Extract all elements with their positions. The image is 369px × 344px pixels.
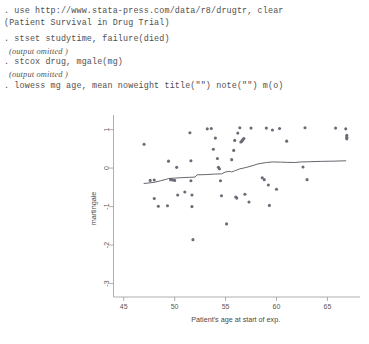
data-point bbox=[238, 126, 241, 129]
data-point bbox=[190, 193, 193, 196]
data-point bbox=[191, 238, 194, 241]
data-point bbox=[189, 179, 192, 182]
lowess-scatter-plot: 10-1-2-34550556065Patient's age at start… bbox=[0, 104, 369, 344]
scatter-points bbox=[143, 126, 349, 241]
data-point bbox=[303, 126, 306, 129]
console-line: (Patient Survival in Drug Trial) bbox=[4, 18, 369, 30]
data-point bbox=[306, 178, 309, 181]
data-point bbox=[249, 127, 252, 130]
plot-axis-labels: 10-1-2-34550556065Patient's age at start… bbox=[89, 128, 332, 324]
data-point bbox=[183, 190, 186, 193]
data-point bbox=[220, 194, 223, 197]
data-point bbox=[214, 137, 217, 140]
data-point bbox=[173, 179, 176, 182]
data-point bbox=[236, 132, 239, 135]
data-point bbox=[242, 137, 245, 140]
stata-console-output: . use http://www.stata-press.com/data/r8… bbox=[0, 0, 369, 92]
data-point bbox=[153, 178, 156, 181]
console-line-omitted: (output omitted ) bbox=[4, 69, 369, 81]
data-point bbox=[167, 160, 170, 163]
x-tick-label: 50 bbox=[171, 303, 179, 310]
data-point bbox=[344, 127, 347, 130]
console-line-omitted: (output omitted ) bbox=[4, 46, 369, 58]
x-tick-label: 45 bbox=[120, 303, 128, 310]
x-tick-label: 65 bbox=[324, 303, 332, 310]
x-tick-label: 55 bbox=[222, 303, 230, 310]
y-tick-label: 0 bbox=[103, 166, 110, 170]
data-point bbox=[188, 131, 191, 134]
data-point bbox=[271, 128, 274, 131]
data-point bbox=[275, 188, 278, 191]
plot-canvas: 10-1-2-34550556065Patient's age at start… bbox=[0, 104, 369, 344]
data-point bbox=[143, 143, 146, 146]
data-point bbox=[175, 166, 178, 169]
data-point bbox=[233, 139, 236, 142]
data-point bbox=[176, 193, 179, 196]
data-point bbox=[189, 159, 192, 162]
data-point bbox=[285, 140, 288, 143]
data-point bbox=[265, 127, 268, 130]
data-point bbox=[232, 149, 235, 152]
data-point bbox=[157, 205, 160, 208]
data-point bbox=[149, 179, 152, 182]
data-point bbox=[268, 204, 271, 207]
data-point bbox=[235, 197, 238, 200]
console-line: . stcox drug, mgale(mg) bbox=[4, 57, 369, 69]
data-point bbox=[212, 148, 215, 151]
data-point bbox=[301, 165, 304, 168]
data-point bbox=[345, 137, 348, 140]
data-point bbox=[247, 200, 250, 203]
data-point bbox=[278, 127, 281, 130]
data-point bbox=[210, 127, 213, 130]
data-point bbox=[153, 197, 156, 200]
data-point bbox=[243, 193, 246, 196]
data-point bbox=[334, 127, 337, 130]
y-tick-label: -1 bbox=[103, 203, 110, 209]
data-point bbox=[166, 204, 169, 207]
y-tick-label: -2 bbox=[103, 242, 110, 248]
console-line: . lowess mg age, mean noweight title("")… bbox=[4, 81, 369, 93]
console-line: . stset studytime, failure(died) bbox=[4, 34, 369, 46]
console-line: . use http://www.stata-press.com/data/r8… bbox=[4, 6, 369, 18]
data-point bbox=[218, 167, 221, 170]
data-point bbox=[206, 127, 209, 130]
data-point bbox=[225, 222, 228, 225]
y-axis-title: martingale bbox=[89, 192, 98, 226]
plot-axes bbox=[110, 115, 361, 301]
x-axis-title: Patient's age at start of exp. bbox=[191, 315, 280, 324]
data-point bbox=[219, 179, 222, 182]
y-tick-label: 1 bbox=[103, 128, 110, 132]
data-point bbox=[190, 205, 193, 208]
data-point bbox=[230, 158, 233, 161]
data-point bbox=[263, 178, 266, 181]
y-tick-label: -3 bbox=[103, 280, 110, 286]
data-point bbox=[267, 183, 270, 186]
x-tick-label: 60 bbox=[273, 303, 281, 310]
data-point bbox=[216, 157, 219, 160]
